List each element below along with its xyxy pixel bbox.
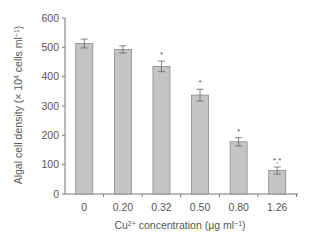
y-tick-label: 300 [41, 100, 59, 112]
y-tick-label: 0 [53, 188, 59, 200]
significance-marker: * [160, 50, 163, 59]
x-tick-label: 0 [81, 201, 87, 213]
significance-marker: *,* [273, 156, 281, 165]
x-tick-label: 1.26 [267, 201, 288, 213]
y-axis-label: Algal cell density (× 104 cells ml−1) [12, 26, 24, 185]
y-tick-label: 100 [41, 158, 59, 170]
bar: * [230, 127, 247, 194]
bar: * [153, 50, 170, 194]
bar: *,* [269, 156, 286, 194]
bar [76, 39, 93, 194]
bar-chart: 0100200300400500600 00.200.320.500.801.2… [0, 0, 315, 242]
x-tick-label: 0.80 [228, 201, 249, 213]
x-tick-label: 0.50 [190, 201, 211, 213]
y-tick-label: 500 [41, 41, 59, 53]
x-axis: 00.200.320.500.801.26 [65, 194, 298, 213]
x-tick-label: 0.32 [151, 201, 172, 213]
significance-marker: * [237, 127, 240, 136]
x-tick-label: 0.20 [113, 201, 134, 213]
bar: * [192, 78, 209, 194]
y-axis: 0100200300400500600 [41, 12, 65, 200]
y-tick-label: 600 [41, 12, 59, 24]
bar [114, 46, 131, 194]
significance-marker: * [198, 78, 201, 87]
x-axis-label: Cu2+ concentration (μg ml−1) [114, 219, 245, 231]
y-tick-label: 200 [41, 129, 59, 141]
bars: ****,* [76, 39, 286, 194]
y-tick-label: 400 [41, 70, 59, 82]
